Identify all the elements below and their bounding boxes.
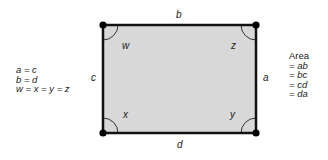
vertex-top-left bbox=[99, 21, 106, 28]
area-line: = da bbox=[289, 89, 309, 99]
side-label-right: a bbox=[263, 73, 269, 83]
side-label-bottom: d bbox=[177, 140, 183, 150]
angle-label-w: w bbox=[122, 41, 129, 51]
side-label-left: c bbox=[91, 73, 96, 83]
angle-label-x: x bbox=[123, 110, 128, 120]
vertex-top-right bbox=[252, 21, 259, 28]
angle-label-z: z bbox=[231, 41, 236, 51]
relations-block: a = c b = d w = x = y = z bbox=[16, 65, 70, 94]
side-label-top: b bbox=[176, 10, 182, 20]
area-block: Area = ab = bc = cd = da bbox=[289, 51, 309, 99]
vertex-bottom-left bbox=[99, 129, 106, 136]
relation-line: w = x = y = z bbox=[16, 84, 70, 94]
angle-label-y: y bbox=[230, 110, 235, 120]
vertex-bottom-right bbox=[252, 129, 259, 136]
